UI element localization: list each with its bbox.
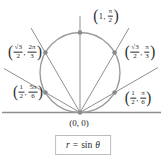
formula-function: sin	[81, 140, 92, 150]
point-label-top: ( 1 , π 2 )	[93, 8, 119, 25]
theta-fraction: 5π 6	[28, 84, 37, 101]
point-label-lower-left: ( 1 2 , 5π 6 )	[12, 84, 43, 101]
equals-sign: =	[73, 140, 78, 150]
point-dot-5pi-6	[43, 90, 48, 95]
open-paren: (	[8, 44, 14, 60]
comma: ,	[140, 49, 142, 57]
polar-curve-diagram: ( 1 , π 2 ) ( √3 2 , 2π 3 ) ( √3 2 , π 3	[0, 0, 163, 165]
point-dot-pi-3	[112, 50, 117, 55]
point-dot-origin	[78, 110, 83, 115]
close-paren: )	[38, 84, 44, 100]
close-paren: )	[36, 44, 42, 60]
point-label-upper-left: ( √3 2 , 2π 3 )	[8, 44, 43, 61]
point-dot-2pi-3	[43, 50, 48, 55]
comma: ,	[24, 89, 26, 97]
r-fraction: 1 2	[18, 84, 24, 101]
point-dot-pi-6	[112, 90, 117, 95]
r-value: 1	[99, 12, 103, 21]
point-label-upper-right: ( √3 2 , π 3 )	[124, 44, 155, 61]
close-paren: )	[113, 8, 119, 24]
r-fraction: 1 2	[130, 90, 136, 107]
r-fraction: √3 2	[14, 44, 23, 61]
comma: ,	[23, 49, 25, 57]
formula-lhs: r	[66, 140, 70, 150]
open-paren: (	[124, 90, 130, 106]
origin-label: (0, 0)	[69, 118, 89, 128]
formula-box: r = sin θ	[55, 135, 111, 155]
close-paren: )	[146, 90, 152, 106]
theta-fraction: 2π 3	[27, 44, 36, 61]
comma: ,	[104, 13, 106, 21]
open-paren: (	[93, 8, 99, 24]
comma: ,	[136, 95, 138, 103]
close-paren: )	[150, 44, 156, 60]
open-paren: (	[124, 44, 130, 60]
formula-argument: θ	[95, 140, 100, 150]
r-fraction: √3 2	[130, 44, 139, 61]
open-paren: (	[12, 84, 18, 100]
point-dot-pi-2	[78, 30, 83, 35]
point-label-lower-right: ( 1 2 , π 6 )	[124, 90, 152, 107]
